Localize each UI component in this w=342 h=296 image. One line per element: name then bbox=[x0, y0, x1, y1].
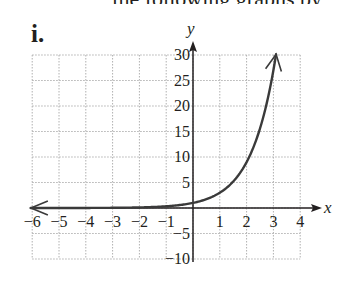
y-tick-label: 30 bbox=[174, 46, 190, 63]
y-tick-label: 25 bbox=[174, 72, 190, 89]
y-tick-label: 15 bbox=[174, 123, 190, 140]
y-tick-label: 10 bbox=[174, 148, 190, 165]
x-axis-label: x bbox=[323, 198, 332, 217]
x-tick-label: −3 bbox=[104, 213, 121, 230]
x-tick-label: 3 bbox=[269, 213, 277, 230]
x-tick-labels: −6−5−4−3−2−11234 bbox=[24, 213, 305, 230]
y-axis-label: y bbox=[185, 19, 195, 38]
x-tick-label: −4 bbox=[77, 213, 94, 230]
y-tick-label: 20 bbox=[174, 97, 190, 114]
y-tick-label: −10 bbox=[165, 250, 190, 267]
x-tick-label: 1 bbox=[216, 213, 224, 230]
graph: x y −6−5−4−3−2−11234 30252015105−5−10 bbox=[0, 0, 342, 296]
exponential-curve bbox=[31, 54, 282, 215]
x-tick-label: 2 bbox=[243, 213, 251, 230]
x-tick-label: −5 bbox=[50, 213, 67, 230]
x-tick-label: −2 bbox=[131, 213, 148, 230]
y-tick-label: 5 bbox=[182, 174, 190, 191]
y-tick-label: −5 bbox=[173, 225, 190, 242]
x-tick-label: 4 bbox=[296, 213, 304, 230]
y-tick-labels: 30252015105−5−10 bbox=[165, 46, 190, 267]
x-tick-label: −6 bbox=[24, 213, 41, 230]
